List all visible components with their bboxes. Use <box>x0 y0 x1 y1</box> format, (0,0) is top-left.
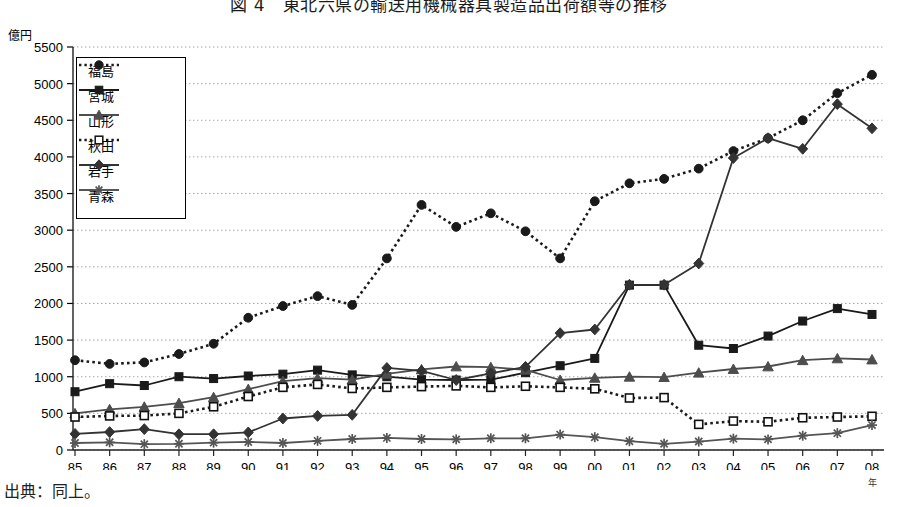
legend-item-山形[interactable]: 山形 <box>77 108 185 133</box>
data-point <box>799 414 807 422</box>
series-line <box>75 384 872 424</box>
x-tick-label: 88 <box>172 460 186 470</box>
data-point <box>106 380 114 388</box>
legend-item-秋田[interactable]: 秋田 <box>77 133 185 158</box>
data-point <box>868 412 876 420</box>
data-point <box>521 382 529 390</box>
x-tick-label: 91 <box>276 460 290 470</box>
x-tick-label: 95 <box>414 460 428 470</box>
x-tick-label: 07 <box>830 460 844 470</box>
series-line <box>75 104 872 434</box>
data-point <box>105 360 114 369</box>
data-point <box>70 438 80 448</box>
series-岩手 <box>70 99 877 440</box>
data-point <box>659 439 669 449</box>
x-axis-unit-label: 年 <box>868 476 877 489</box>
data-point <box>71 388 79 396</box>
series-line <box>75 285 872 392</box>
series-秋田 <box>71 380 876 428</box>
data-point <box>174 429 184 440</box>
data-point <box>106 412 114 420</box>
chart-legend: 福島宮城山形秋田岩手青森 <box>76 57 186 219</box>
data-point <box>382 433 392 443</box>
y-tick-label: 5500 <box>34 40 63 55</box>
x-tick-label: 00 <box>588 460 602 470</box>
data-point <box>833 89 842 98</box>
legend-marker-open-square-icon <box>77 133 121 147</box>
data-point <box>695 420 703 428</box>
x-tick-label: 93 <box>345 460 359 470</box>
y-tick-label: 4000 <box>34 150 63 165</box>
x-tick-label: 03 <box>692 460 706 470</box>
x-tick-label: 92 <box>310 460 324 470</box>
y-tick-label: 3500 <box>34 187 63 202</box>
data-point <box>417 365 427 376</box>
data-point <box>591 354 599 362</box>
data-point <box>867 420 877 430</box>
x-tick-label: 97 <box>484 460 498 470</box>
data-point <box>418 383 426 391</box>
data-point <box>487 383 495 391</box>
data-point <box>728 434 738 444</box>
legend-marker-square-icon <box>77 83 121 97</box>
data-point <box>244 393 252 401</box>
data-point <box>729 345 737 353</box>
data-point <box>175 409 183 417</box>
legend-item-青森[interactable]: 青森 <box>77 183 185 208</box>
y-tick-label: 1500 <box>34 333 63 348</box>
y-tick-label: 500 <box>41 406 63 421</box>
data-point <box>590 197 599 206</box>
x-tick-label: 05 <box>761 460 775 470</box>
series-line <box>75 75 872 364</box>
data-point <box>279 383 287 391</box>
x-tick-label: 87 <box>137 460 151 470</box>
data-point <box>556 383 564 391</box>
data-point <box>139 424 149 435</box>
data-point <box>694 164 703 173</box>
y-tick-label: 2000 <box>34 296 63 311</box>
data-point <box>486 433 496 443</box>
data-point <box>590 432 600 442</box>
y-tick-label: 4500 <box>34 113 63 128</box>
data-point <box>313 436 323 446</box>
data-point <box>244 372 252 380</box>
data-point <box>867 123 877 134</box>
data-point <box>625 394 633 402</box>
data-point <box>868 70 877 79</box>
series-福島 <box>71 70 877 368</box>
y-tick-label: 2500 <box>34 260 63 275</box>
data-point <box>799 317 807 325</box>
x-tick-label: 02 <box>657 460 671 470</box>
y-tick-label: 1000 <box>34 370 63 385</box>
data-point <box>521 227 530 236</box>
data-point <box>313 411 323 422</box>
data-point <box>591 385 599 393</box>
x-tick-label: 89 <box>206 460 220 470</box>
data-point <box>417 434 427 444</box>
data-point <box>348 301 357 310</box>
legend-item-福島[interactable]: 福島 <box>77 58 185 83</box>
legend-item-宮城[interactable]: 宮城 <box>77 83 185 108</box>
data-point <box>555 430 565 440</box>
data-point <box>520 433 530 443</box>
data-point <box>833 413 841 421</box>
legend-item-岩手[interactable]: 岩手 <box>77 158 185 183</box>
legend-marker-circle-icon <box>77 58 121 72</box>
data-point <box>347 434 357 444</box>
y-tick-label: 3000 <box>34 223 63 238</box>
data-point <box>694 437 704 447</box>
data-point <box>244 313 253 322</box>
x-tick-label: 99 <box>553 460 567 470</box>
x-tick-label: 04 <box>726 460 740 470</box>
data-point <box>832 428 842 438</box>
data-point <box>383 383 391 391</box>
x-tick-label: 96 <box>449 460 463 470</box>
data-point <box>139 439 149 449</box>
data-point <box>210 403 218 411</box>
data-point <box>382 254 391 263</box>
data-point <box>868 310 876 318</box>
source-note: 出典：同上。 <box>4 478 100 502</box>
data-point <box>140 382 148 390</box>
legend-marker-diamond-icon <box>77 158 121 172</box>
data-point <box>314 380 322 388</box>
